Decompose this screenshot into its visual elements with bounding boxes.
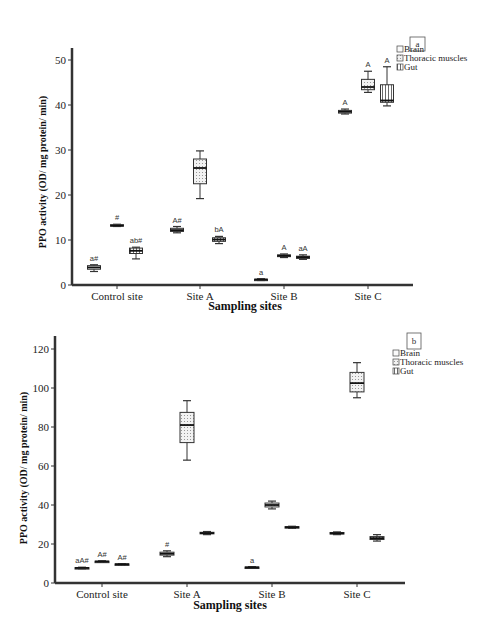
legend-swatch — [397, 55, 403, 61]
box-thoracic-muscles — [180, 401, 194, 460]
box-gut — [200, 532, 214, 535]
y-tick-label: 0 — [61, 279, 67, 291]
box-brain: aA# — [75, 556, 89, 569]
x-tick-label: Control site — [91, 290, 143, 302]
y-tick-label: 30 — [55, 144, 67, 156]
x-axis-title: Sampling sites — [193, 598, 267, 612]
legend-swatch — [393, 368, 399, 374]
y-tick-label: 50 — [55, 54, 67, 66]
significance-label: A — [281, 243, 286, 252]
box-brain: a — [245, 556, 259, 569]
y-tick-label: 100 — [33, 382, 50, 394]
box-thoracic-muscles — [194, 151, 207, 199]
significance-label: aA# — [75, 556, 89, 565]
legend-label: Gut — [400, 366, 414, 376]
box-gut: aA — [297, 244, 310, 260]
y-axis-title: PPO activity (OD/ mg protein/ min) — [18, 392, 30, 544]
legend: BrainThoracic musclesGut — [393, 348, 464, 376]
panel-tag: b — [412, 336, 417, 346]
significance-label: aA — [298, 244, 307, 253]
box-gut: ab# — [130, 236, 144, 259]
box-brain: # — [160, 540, 174, 557]
box-thoracic-muscles: # — [111, 213, 124, 226]
box-gut: A# — [115, 553, 129, 566]
significance-label: a — [250, 556, 255, 565]
box-brain: A# — [171, 216, 184, 233]
legend-swatch — [393, 359, 399, 365]
significance-label: A# — [172, 216, 182, 225]
significance-label: # — [115, 213, 120, 222]
box-thoracic-muscles — [265, 501, 279, 509]
box-brain — [330, 532, 344, 535]
y-tick-label: 60 — [38, 460, 50, 472]
box-brain: A — [339, 98, 352, 114]
y-tick-label: 80 — [38, 421, 50, 433]
significance-label: bA — [214, 225, 223, 234]
y-axis-title: PPO activity (OD/ mg protein/ min) — [37, 96, 49, 248]
significance-label: a — [259, 268, 264, 277]
significance-label: a# — [90, 254, 99, 263]
y-tick-label: 20 — [55, 189, 67, 201]
box-thoracic-muscles — [350, 363, 364, 398]
legend-swatch — [393, 350, 399, 356]
y-tick-label: 10 — [55, 234, 67, 246]
significance-label: A — [342, 98, 347, 107]
significance-label: A — [384, 56, 389, 65]
significance-label: # — [165, 540, 170, 549]
box-thoracic-muscles: A# — [95, 550, 109, 563]
legend-label: Gut — [404, 62, 418, 72]
box-thoracic-muscles: A — [362, 60, 375, 92]
box-brain: a — [255, 268, 268, 281]
significance-label: A# — [117, 553, 127, 562]
chart-panel-b: 020406080100120Control siteSite ASite BS… — [18, 333, 464, 612]
legend: BrainThoracic musclesGut — [397, 44, 468, 72]
legend-swatch — [397, 64, 403, 70]
significance-label: ab# — [130, 236, 143, 245]
y-tick-label: 40 — [38, 499, 50, 511]
x-tick-label: Site C — [354, 290, 381, 302]
x-tick-label: Control site — [76, 588, 128, 600]
legend-swatch — [397, 46, 403, 52]
y-tick-label: 40 — [55, 99, 67, 111]
x-axis-title: Sampling sites — [208, 299, 282, 313]
box-gut: A — [381, 56, 394, 106]
box-gut — [370, 535, 384, 541]
y-tick-label: 0 — [44, 577, 50, 589]
figure: 01020304050Control siteSite ASite BSite … — [0, 0, 488, 631]
chart-panel-a: 01020304050Control siteSite ASite BSite … — [37, 37, 468, 313]
box-gut — [285, 526, 299, 528]
box-thoracic-muscles: A — [278, 243, 291, 258]
box-brain: a# — [88, 254, 101, 272]
y-tick-label: 20 — [38, 538, 50, 550]
significance-label: A# — [97, 550, 107, 559]
box-gut: bA — [213, 225, 226, 243]
y-tick-label: 120 — [33, 343, 50, 355]
x-tick-label: Site C — [343, 588, 370, 600]
significance-label: A — [365, 60, 370, 69]
